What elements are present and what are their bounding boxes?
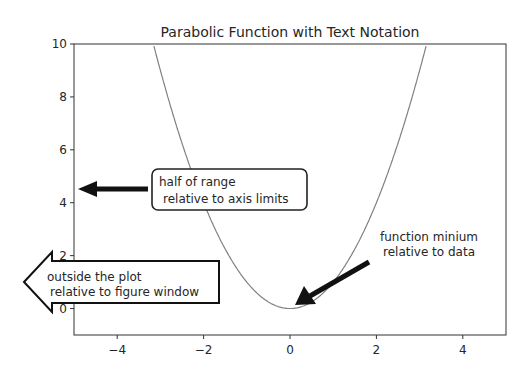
y-tick-label: 6: [59, 143, 67, 157]
y-tick-label: 8: [59, 90, 67, 104]
annotation-minimum-line1: function minium: [380, 230, 478, 244]
chart-title: Parabolic Function with Text Notation: [161, 24, 420, 40]
annotation-half-range-line1: half of range: [159, 175, 236, 189]
annotation-outside: outside the plot relative to figure wind…: [24, 252, 219, 312]
y-tick-label: 10: [52, 37, 67, 51]
x-tick-label: 0: [286, 343, 294, 357]
annotation-outside-line2: relative to figure window: [50, 285, 199, 299]
annotation-half-range-line2: relative to axis limits: [163, 192, 288, 206]
x-axis: −4−2024: [108, 335, 466, 357]
y-tick-label: 4: [59, 196, 67, 210]
x-tick-label: 4: [459, 343, 467, 357]
annotation-minimum-line2: relative to data: [383, 245, 475, 259]
x-tick-label: 2: [373, 343, 381, 357]
annotation-outside-line1: outside the plot: [47, 270, 142, 284]
parabola-chart: −4−2024 0246810 Parabolic Function with …: [0, 0, 532, 377]
x-tick-label: −4: [108, 343, 126, 357]
x-tick-label: −2: [195, 343, 213, 357]
